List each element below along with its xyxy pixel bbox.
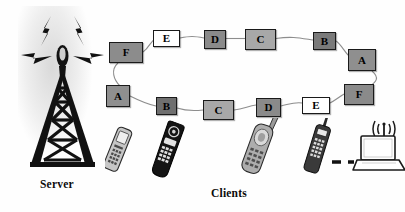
- ring-node-top-e[interactable]: E: [153, 30, 180, 47]
- ring-node-label: D: [265, 102, 273, 113]
- mobile-phone-icon[interactable]: [105, 126, 133, 172]
- ring-node-label: B: [321, 35, 328, 46]
- ring-node-top-d[interactable]: D: [204, 30, 226, 49]
- mobile-phone-antenna-icon[interactable]: [240, 118, 280, 175]
- ring-node-label: A: [358, 54, 366, 65]
- radio-tower-icon: [8, 4, 116, 176]
- laptop-wifi-icon[interactable]: [353, 121, 405, 170]
- ring-node-label: B: [163, 100, 170, 111]
- clients-label: Clients: [211, 187, 247, 199]
- server-label: Server: [40, 178, 74, 190]
- ring-node-label: E: [312, 100, 319, 111]
- client-devices-group: [105, 118, 405, 198]
- ring-node-bottom-c[interactable]: C: [203, 100, 234, 120]
- ring-node-bottom-a[interactable]: A: [106, 85, 130, 107]
- ring-node-label: C: [215, 104, 223, 115]
- ring-node-bottom-b[interactable]: B: [156, 97, 177, 115]
- ring-node-label: A: [114, 90, 122, 101]
- ring-node-top-c[interactable]: C: [245, 29, 276, 50]
- ring-node-label: C: [257, 34, 265, 45]
- ring-node-bottom-f[interactable]: F: [344, 84, 374, 105]
- ring-node-label: E: [163, 33, 170, 44]
- flip-phone-icon[interactable]: [150, 120, 185, 178]
- ring-node-top-b[interactable]: B: [313, 32, 336, 50]
- bar-phone-icon[interactable]: [303, 118, 338, 174]
- ring-node-top-f[interactable]: F: [109, 42, 143, 63]
- ring-node-bottom-d[interactable]: D: [256, 98, 281, 117]
- ring-node-label: F: [123, 47, 130, 58]
- ring-node-top-a[interactable]: A: [348, 49, 376, 71]
- ring-node-label: F: [356, 89, 363, 100]
- ring-node-label: D: [211, 34, 219, 45]
- diagram-canvas: Server F E D C B: [0, 0, 405, 212]
- ring-node-bottom-e[interactable]: E: [302, 97, 330, 114]
